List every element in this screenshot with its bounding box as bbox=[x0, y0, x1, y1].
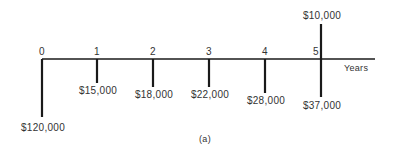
cash-flow-label-year-1: $15,000 bbox=[79, 86, 117, 96]
year-label-4: 4 bbox=[262, 47, 268, 57]
cash-flow-diagram: 0 1 2 3 4 5 Years $120,000 $15,000 $18,0… bbox=[0, 0, 394, 150]
year-label-3: 3 bbox=[206, 47, 212, 57]
cash-flow-label-year-4: $28,000 bbox=[247, 96, 285, 106]
figure-caption: (a) bbox=[199, 134, 211, 144]
year-label-0: 0 bbox=[39, 47, 45, 57]
axis-label-years: Years bbox=[344, 63, 368, 73]
cash-flow-label-year-2: $18,000 bbox=[135, 90, 173, 100]
cash-flow-label-year-5-out: $37,000 bbox=[303, 101, 341, 111]
year-label-1: 1 bbox=[94, 47, 100, 57]
cash-flow-label-year-5-in: $10,000 bbox=[303, 11, 341, 21]
year-label-2: 2 bbox=[150, 47, 156, 57]
year-label-5: 5 bbox=[313, 47, 319, 57]
cash-flow-label-year-0: $120,000 bbox=[21, 123, 65, 133]
cash-flow-label-year-3: $22,000 bbox=[191, 90, 229, 100]
